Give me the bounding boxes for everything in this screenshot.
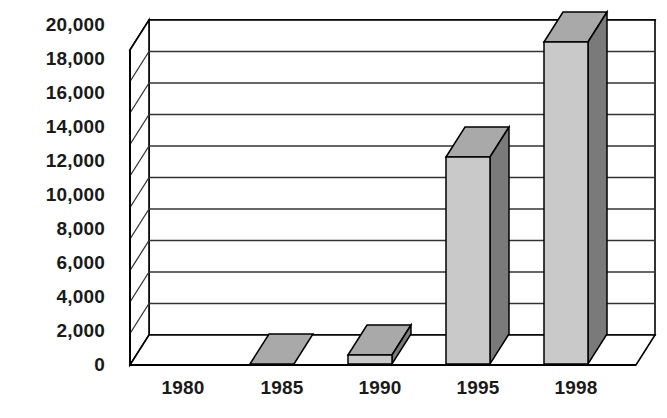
x-axis-tick-label: 1995 bbox=[433, 378, 523, 397]
bar-1998[interactable] bbox=[544, 12, 607, 364]
plot-area bbox=[0, 0, 667, 418]
x-axis-tick-label: 1990 bbox=[335, 378, 425, 397]
chart-container: 20,000 18,000 16,000 14,000 12,000 10,00… bbox=[0, 0, 667, 418]
x-axis-tick-label: 1980 bbox=[138, 378, 228, 397]
x-axis-tick-label: 1985 bbox=[237, 378, 327, 397]
bar-1995[interactable] bbox=[446, 127, 509, 364]
x-axis-tick-label: 1998 bbox=[531, 378, 621, 397]
